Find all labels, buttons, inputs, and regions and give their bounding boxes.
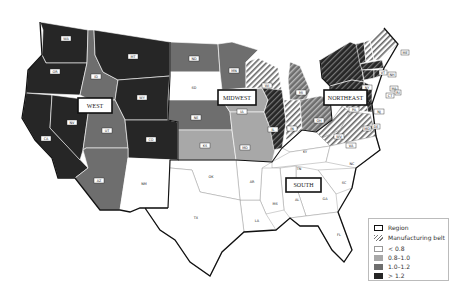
svg-text:NV: NV — [70, 121, 76, 125]
svg-text:WEST: WEST — [87, 103, 104, 109]
west-states — [22, 22, 178, 212]
svg-text:AR: AR — [250, 180, 255, 184]
svg-text:ND: ND — [191, 57, 197, 61]
svg-text:MD: MD — [364, 127, 370, 131]
region-label-west: WEST — [78, 98, 112, 113]
region-swatch — [374, 225, 383, 231]
svg-text:PA: PA — [352, 108, 357, 112]
swatch-lt-0-8 — [374, 246, 383, 252]
svg-text:ME: ME — [402, 51, 407, 55]
legend-region-label: Region — [388, 224, 409, 231]
state-FL[interactable] — [290, 212, 352, 262]
svg-text:CO: CO — [148, 138, 153, 142]
legend-class-1: 0.8–1.0 — [374, 254, 410, 261]
svg-text:MO: MO — [242, 146, 248, 150]
swatch-gt-1-2 — [374, 273, 383, 279]
legend-manufacturing-belt: Manufacturing belt — [374, 234, 445, 241]
region-label-south: SOUTH — [286, 178, 321, 192]
state-CT[interactable] — [362, 70, 374, 80]
legend: Region Manufacturing belt < 0.8 0.8–1.0 … — [368, 218, 449, 281]
swatch-1-0-1-2 — [374, 264, 383, 270]
svg-text:FL: FL — [337, 233, 341, 237]
legend-c1-label: 0.8–1.0 — [388, 254, 410, 261]
svg-text:NORTHEAST: NORTHEAST — [328, 95, 364, 101]
legend-class-2: 1.0–1.2 — [374, 263, 410, 270]
svg-text:OK: OK — [209, 175, 215, 179]
svg-text:SD: SD — [192, 86, 197, 90]
svg-text:CA: CA — [44, 137, 49, 141]
legend-c3-label: > 1.2 — [388, 272, 404, 279]
svg-text:MN: MN — [231, 69, 237, 73]
svg-text:WV: WV — [336, 135, 342, 139]
svg-text:IL: IL — [272, 128, 275, 132]
svg-text:MIDWEST: MIDWEST — [223, 95, 251, 101]
state-ME[interactable] — [370, 28, 398, 60]
legend-belt-label: Manufacturing belt — [388, 234, 445, 241]
svg-text:NJ: NJ — [377, 110, 381, 114]
svg-text:RI: RI — [396, 91, 399, 95]
state-MS[interactable] — [260, 168, 284, 214]
legend-class-0: < 0.8 — [374, 245, 404, 252]
legend-class-3: > 1.2 — [374, 272, 404, 279]
svg-text:IN: IN — [290, 127, 294, 131]
svg-text:NH: NH — [389, 73, 395, 77]
svg-text:OR: OR — [52, 70, 58, 74]
svg-text:TN: TN — [296, 167, 302, 171]
svg-text:SC: SC — [342, 181, 347, 185]
svg-text:NC: NC — [350, 162, 356, 166]
svg-text:NE: NE — [194, 116, 199, 120]
svg-text:LA: LA — [255, 219, 260, 223]
svg-text:KS: KS — [203, 144, 207, 148]
svg-text:TX: TX — [193, 216, 199, 220]
svg-text:MI: MI — [299, 91, 303, 95]
svg-text:NM: NM — [141, 182, 147, 186]
svg-text:MS: MS — [272, 202, 277, 206]
svg-text:SOUTH: SOUTH — [293, 182, 314, 188]
region-label-midwest: MIDWEST — [218, 90, 256, 105]
svg-text:WY: WY — [139, 96, 145, 100]
svg-text:OH: OH — [316, 119, 322, 123]
svg-text:WI: WI — [265, 84, 269, 88]
svg-text:AL: AL — [295, 198, 299, 202]
svg-text:VA: VA — [349, 144, 354, 148]
hatch-swatch — [374, 235, 383, 241]
svg-text:GA: GA — [323, 197, 329, 201]
legend-region: Region — [374, 224, 409, 231]
legend-c0-label: < 0.8 — [388, 245, 404, 252]
svg-text:DE: DE — [374, 125, 379, 129]
swatch-0-8-1-0 — [374, 255, 383, 261]
svg-text:AZ: AZ — [97, 179, 102, 183]
state-WA[interactable] — [40, 22, 88, 63]
legend-c2-label: 1.0–1.2 — [388, 263, 410, 270]
region-label-northeast: NORTHEAST — [324, 90, 367, 105]
svg-text:WA: WA — [63, 37, 69, 41]
svg-text:ID: ID — [94, 75, 98, 79]
